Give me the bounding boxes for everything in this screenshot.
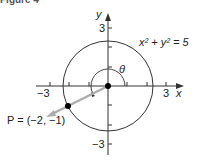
y-axis-label: y <box>95 8 103 20</box>
tick-label-x-neg: −3 <box>37 87 50 99</box>
x-axis-label: x <box>175 87 182 99</box>
unit-circle-diagram: −3 3 x y 3 −3 x² + y² = 5 θ P = (−2, −1) <box>0 0 198 161</box>
tick-label-y-pos: 3 <box>99 22 105 34</box>
origin-dot <box>105 83 111 89</box>
tick-label-y-neg: −3 <box>92 138 105 150</box>
point-p-dot <box>65 103 71 109</box>
y-axis-arrow-icon <box>105 13 111 21</box>
point-p-label: P = (−2, −1) <box>7 114 65 126</box>
theta-label: θ <box>119 63 125 75</box>
equation-label: x² + y² = 5 <box>138 36 189 48</box>
ray-to-point <box>52 86 108 114</box>
tick-label-x-pos: 3 <box>163 87 169 99</box>
